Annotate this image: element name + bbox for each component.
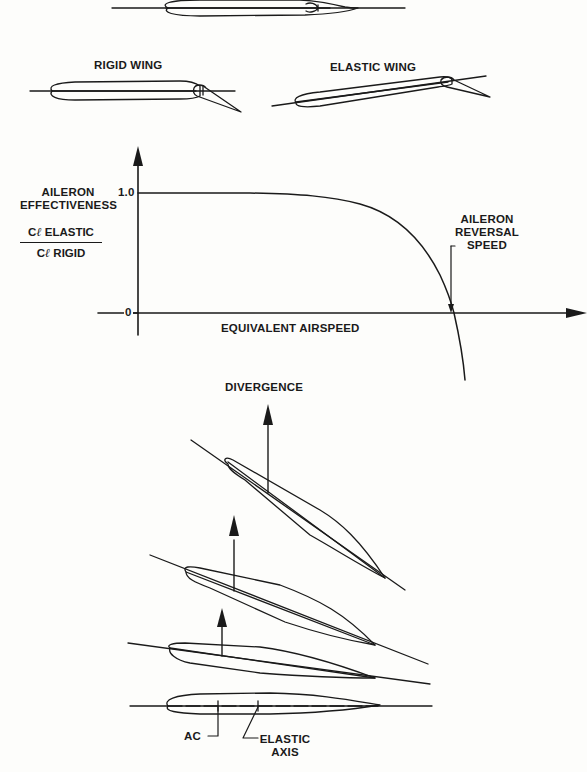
y-axis-label-line1: AILERON bbox=[20, 186, 116, 199]
ac-leader bbox=[208, 707, 218, 736]
fraction-bar bbox=[20, 242, 102, 243]
y-axis-label: AILERON EFFECTIVENESS bbox=[20, 186, 116, 212]
annotation-line2: REVERSAL bbox=[447, 226, 527, 239]
rigid-wing-label: RIGID WING bbox=[94, 59, 162, 72]
elastic-axis-line2: AXIS bbox=[257, 746, 313, 759]
ratio-denominator: Cℓ RIGID bbox=[20, 246, 102, 260]
neutral-airfoil bbox=[112, 0, 405, 16]
elastic-axis-leader bbox=[243, 707, 258, 738]
divergence-arrow-icon bbox=[263, 404, 273, 425]
denominator-text: RIGID bbox=[53, 247, 85, 259]
elastic-axis-label: ELASTIC AXIS bbox=[257, 733, 313, 759]
baseline-airfoil bbox=[130, 693, 432, 714]
divergence-airfoil-3 bbox=[150, 555, 428, 664]
annotation-line1: AILERON bbox=[447, 213, 527, 226]
lift-arrow-2-icon bbox=[217, 608, 227, 627]
reversal-speed-leader bbox=[451, 246, 455, 306]
y-axis-arrow-icon bbox=[133, 146, 143, 166]
elastic-axis-line1: ELASTIC bbox=[257, 733, 313, 746]
annotation-line3: SPEED bbox=[447, 239, 527, 252]
x-axis-arrow-icon bbox=[566, 308, 587, 318]
cl-subscript: ℓ bbox=[45, 246, 50, 260]
effectiveness-curve bbox=[138, 193, 465, 380]
tick-one: 1.0 bbox=[118, 186, 135, 199]
ratio-numerator: Cℓ ELASTIC bbox=[20, 225, 102, 239]
numerator-text: ELASTIC bbox=[45, 226, 94, 238]
divergence-airfoil-2 bbox=[128, 643, 430, 684]
elastic-wing-label: ELASTIC WING bbox=[330, 61, 416, 74]
reversal-speed-annotation: AILERON REVERSAL SPEED bbox=[447, 213, 527, 252]
rigid-wing-airfoil bbox=[30, 81, 241, 112]
cl-symbol: C bbox=[37, 247, 45, 259]
divergence-label: DIVERGENCE bbox=[225, 381, 303, 394]
ratio-fraction: Cℓ ELASTIC Cℓ RIGID bbox=[20, 225, 102, 260]
elastic-wing-airfoil bbox=[272, 76, 490, 107]
ac-label: AC bbox=[184, 730, 201, 743]
x-axis-label: EQUIVALENT AIRSPEED bbox=[221, 322, 360, 335]
cl-subscript: ℓ bbox=[36, 225, 41, 239]
divergence-airfoil-4 bbox=[191, 440, 405, 590]
y-axis-label-line2: EFFECTIVENESS bbox=[20, 199, 116, 212]
tick-zero: 0 bbox=[124, 306, 133, 319]
lift-arrow-3-icon bbox=[229, 515, 239, 536]
